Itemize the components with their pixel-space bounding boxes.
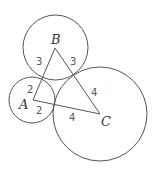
vertex-label-a: A (18, 97, 28, 112)
segment-label-bc-c: 4 (91, 87, 97, 98)
circle-b (23, 15, 88, 80)
segment-label-ac-a: 2 (36, 105, 42, 116)
tangent-circles-diagram: B A C 3 3 2 2 4 4 (0, 0, 155, 170)
vertex-label-b: B (50, 32, 61, 47)
vertex-label-c: C (101, 114, 111, 129)
segment-label-ab-b: 3 (36, 56, 42, 67)
segment-label-ab-a: 2 (27, 84, 33, 95)
segment-label-ac-c: 4 (69, 112, 75, 123)
segment-label-bc-b: 3 (70, 56, 76, 67)
